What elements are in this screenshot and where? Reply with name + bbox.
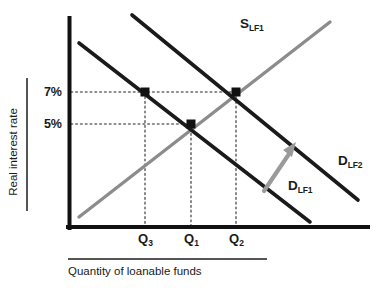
x-tick-q3: Q3 [138, 231, 153, 246]
loanable-funds-chart: 7% 5% Real interest rate Q3 Q1 Q2 Quanti… [0, 0, 388, 288]
x-tick-q3-sub: 3 [148, 238, 153, 248]
point-q1 [187, 120, 196, 129]
x-tick-q1: Q1 [184, 231, 199, 246]
x-tick-q2: Q2 [229, 231, 244, 246]
demand-curve-dlf1-label: DLF1 [288, 178, 312, 193]
demand-curve-dlf1-label-main: D [288, 178, 298, 193]
demand-curve-dlf2-label-sub: LF2 [348, 160, 363, 170]
x-tick-q2-sub: 2 [239, 238, 244, 248]
demand-curve-dlf2-label-main: D [338, 153, 348, 168]
demand-curve-dlf2-label: DLF2 [338, 153, 362, 168]
demand-curve-dlf1-label-sub: LF1 [298, 185, 313, 195]
x-axis-title-rule [68, 258, 267, 260]
x-tick-q2-main: Q [229, 231, 239, 246]
point-q3 [141, 88, 150, 97]
x-tick-q1-main: Q [184, 231, 194, 246]
supply-curve-label: SLF1 [240, 16, 264, 31]
y-axis-title-rule [26, 78, 28, 211]
supply-curve-label-sub: LF1 [249, 23, 264, 33]
point-q2 [232, 88, 241, 97]
x-tick-q1-sub: 1 [194, 238, 199, 248]
x-axis-title: Quantity of loanable funds [68, 265, 202, 277]
y-tick-5-percent: 5% [26, 117, 62, 131]
x-tick-q3-main: Q [138, 231, 148, 246]
y-axis-title: Real interest rate [7, 89, 19, 215]
y-axis-title-group: Real interest rate [2, 92, 24, 217]
supply-curve-label-main: S [240, 16, 249, 31]
y-tick-7-percent: 7% [26, 85, 62, 99]
